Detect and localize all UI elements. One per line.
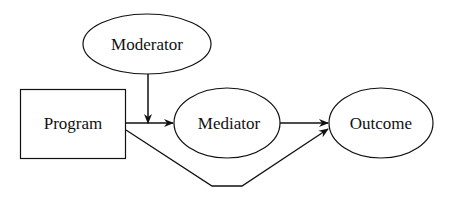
moderation-mediation-diagram: Moderator Program Mediator Outcome <box>0 0 452 198</box>
program-label: Program <box>44 114 103 133</box>
program-node: Program <box>21 90 126 159</box>
moderator-label: Moderator <box>111 35 183 54</box>
mediator-label: Mediator <box>198 114 261 133</box>
mediator-node: Mediator <box>174 88 280 158</box>
outcome-label: Outcome <box>350 114 412 133</box>
outcome-node: Outcome <box>329 88 433 158</box>
moderator-node: Moderator <box>83 14 211 74</box>
